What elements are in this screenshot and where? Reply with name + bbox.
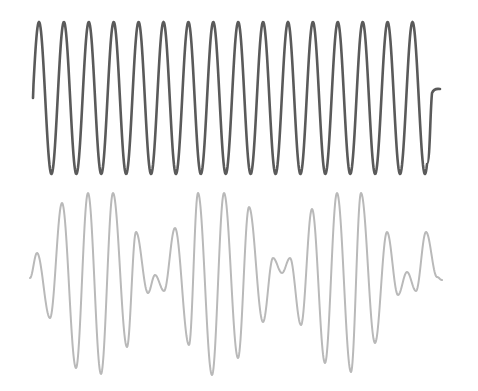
waveform-figure	[0, 0, 478, 391]
modulated-beat-wave	[30, 193, 442, 375]
carrier-sine-wave	[33, 22, 440, 174]
waveform-diagram	[0, 0, 478, 391]
